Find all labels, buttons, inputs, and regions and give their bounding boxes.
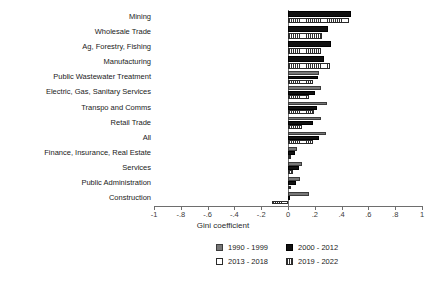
category-label: Electric, Gas, Sanitary Services [46, 88, 151, 96]
legend-swatch-icon [216, 244, 223, 251]
bar [288, 121, 313, 125]
bar [288, 102, 327, 106]
x-axis-tick-label: .4 [338, 210, 344, 219]
bar [288, 132, 326, 136]
bar [288, 170, 293, 174]
bar [288, 136, 319, 140]
bar [288, 18, 349, 24]
legend-swatch-icon [286, 244, 293, 251]
bar [288, 56, 324, 62]
x-axis-title: Gini coefficient [0, 221, 446, 230]
bar [288, 71, 319, 75]
category-label: Transpo and Comms [81, 104, 151, 112]
x-axis-tick-label: .8 [392, 210, 398, 219]
bar [288, 166, 299, 170]
bar [288, 186, 291, 190]
category-label: Wholesale Trade [95, 28, 151, 36]
bar [288, 48, 321, 54]
category-label: All [143, 134, 151, 142]
x-axis-tick-label: 1 [420, 210, 424, 219]
bar [288, 192, 309, 196]
legend-item-label: 2013 - 2018 [228, 257, 268, 266]
legend-item-label: 1990 - 1999 [228, 243, 268, 252]
category-label: Public Administration [81, 179, 151, 187]
bar [288, 80, 313, 84]
bar [288, 26, 328, 32]
bar [288, 106, 317, 110]
legend-item-label: 2019 - 2022 [298, 257, 338, 266]
gini-coefficient-bar-chart: MiningWholesale TradeAg, Forestry, Fishi… [0, 0, 446, 284]
bar [288, 76, 318, 80]
legend-item: 2000 - 2012 [286, 243, 338, 252]
category-label: Manufacturing [103, 58, 151, 66]
bar [288, 33, 322, 39]
bar [288, 140, 313, 144]
legend-item: 2019 - 2022 [286, 257, 338, 266]
bar [288, 151, 295, 155]
bar [288, 117, 321, 121]
bar [288, 196, 290, 200]
legend-grid: 1990 - 19992000 - 20122013 - 20182019 - … [216, 243, 338, 266]
x-axis-tick-label: -.4 [230, 210, 239, 219]
bar [288, 155, 291, 159]
x-axis-tick-label: 0 [286, 210, 290, 219]
category-label: Services [122, 164, 151, 172]
bar [288, 125, 302, 129]
bar [288, 162, 302, 166]
bar [288, 147, 297, 151]
x-axis-tick-label: -.8 [176, 210, 185, 219]
x-axis-tick-label: -.2 [257, 210, 266, 219]
x-axis-tick-label: .2 [312, 210, 318, 219]
bar [288, 41, 331, 47]
legend-item: 1990 - 1999 [216, 243, 268, 252]
x-axis-line [155, 206, 423, 207]
legend-swatch-icon [286, 258, 293, 265]
bar [288, 95, 309, 99]
bar [288, 11, 351, 17]
legend-item: 2013 - 2018 [216, 257, 268, 266]
bar [288, 110, 314, 114]
legend-item-label: 2000 - 2012 [298, 243, 338, 252]
bar [288, 86, 321, 90]
bar [288, 63, 330, 69]
bar [288, 91, 315, 95]
x-axis-tick-label: -.6 [203, 210, 212, 219]
category-label: Mining [129, 13, 151, 21]
category-label: Retail Trade [111, 119, 151, 127]
category-label: Public Wastewater Treatment [53, 73, 151, 81]
bar [272, 201, 288, 205]
x-axis-tick-label: -1 [151, 210, 158, 219]
category-label: Ag, Forestry, Fishing [82, 43, 151, 51]
x-axis-tick-label: .6 [365, 210, 371, 219]
category-label: Construction [109, 194, 151, 202]
bar [288, 181, 296, 185]
legend-swatch-icon [216, 258, 223, 265]
bar [288, 177, 300, 181]
plot-area [155, 10, 423, 206]
category-label: Finance, Insurance, Real Estate [44, 149, 151, 157]
